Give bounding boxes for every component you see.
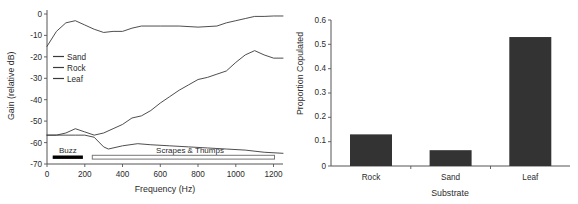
left-x-axis-ticks: 0 200 400 600 800 1000 1200 bbox=[45, 164, 283, 179]
ytick-label-0-3: 0.3 bbox=[315, 88, 327, 97]
legend-label-sand: Sand bbox=[67, 53, 87, 62]
ytick-label-0-1: 0.1 bbox=[315, 136, 327, 145]
left-x-axis-title: Frequency (Hz) bbox=[135, 184, 196, 194]
spectrum-line-chart-panel: Gain (relative dB) 0 -10 -20 -30 -40 -50… bbox=[0, 0, 290, 204]
scrapes-range-bar bbox=[92, 155, 274, 159]
xtick-label-600: 600 bbox=[153, 170, 167, 179]
ytick-label-0-2: 0.2 bbox=[315, 112, 327, 121]
xtick-label-800: 800 bbox=[191, 170, 205, 179]
ytick-label-0-5: 0.5 bbox=[315, 40, 327, 49]
proportion-bar-chart-panel: Proportion Copulated 0.6 0.5 0.4 0.3 0.2… bbox=[290, 0, 578, 204]
ytick-label-m40: -40 bbox=[30, 96, 42, 105]
xtick-label-rock: Rock bbox=[362, 173, 382, 182]
ytick-label-m60: -60 bbox=[30, 139, 42, 148]
xtick-label-1200: 1200 bbox=[264, 170, 283, 179]
legend-label-leaf: Leaf bbox=[67, 75, 84, 84]
bar-chart-svg: Proportion Copulated 0.6 0.5 0.4 0.3 0.2… bbox=[290, 0, 578, 204]
ytick-label-m70: -70 bbox=[30, 160, 42, 169]
ytick-label-m30: -30 bbox=[30, 74, 42, 83]
ytick-label-0-6: 0.6 bbox=[315, 16, 327, 25]
scrapes-label: Scrapes & Thumps bbox=[156, 146, 224, 155]
xtick-label-0: 0 bbox=[45, 170, 50, 179]
xtick-label-leaf: Leaf bbox=[522, 173, 539, 182]
xtick-label-200: 200 bbox=[78, 170, 92, 179]
legend-label-rock: Rock bbox=[67, 64, 87, 73]
xtick-label-sand: Sand bbox=[441, 173, 461, 182]
xtick-label-1000: 1000 bbox=[227, 170, 246, 179]
right-x-axis-ticks: Rock Sand Leaf bbox=[362, 166, 539, 182]
spectrum-legend: Sand Rock Leaf bbox=[53, 53, 87, 84]
ytick-label-0: 0 bbox=[321, 162, 326, 171]
bar-sand bbox=[430, 150, 472, 166]
two-panel-figure: Gain (relative dB) 0 -10 -20 -30 -40 -50… bbox=[0, 0, 578, 204]
ytick-label-m10: -10 bbox=[30, 31, 42, 40]
ytick-label-0: 0 bbox=[37, 10, 42, 19]
right-y-axis-ticks: 0.6 0.5 0.4 0.3 0.2 0.1 0 bbox=[315, 16, 331, 171]
ytick-label-0-4: 0.4 bbox=[315, 64, 327, 73]
buzz-label: Buzz bbox=[59, 146, 77, 155]
bar-rock bbox=[350, 134, 392, 166]
bar-group bbox=[350, 37, 551, 166]
buzz-range-bar bbox=[53, 156, 83, 159]
xtick-label-400: 400 bbox=[116, 170, 130, 179]
left-y-axis-title: Gain (relative dB) bbox=[6, 51, 16, 120]
ytick-label-m20: -20 bbox=[30, 53, 42, 62]
right-x-axis-title: Substrate bbox=[431, 188, 469, 198]
ytick-label-m50: -50 bbox=[30, 117, 42, 126]
curve-leaf bbox=[47, 16, 283, 46]
annotation-scrapes-thumps: Scrapes & Thumps bbox=[92, 146, 274, 159]
right-y-axis-title: Proportion Copulated bbox=[295, 32, 305, 115]
annotation-buzz: Buzz bbox=[53, 146, 83, 159]
bar-leaf bbox=[509, 37, 551, 166]
left-y-axis-ticks: 0 -10 -20 -30 -40 -50 -60 -70 bbox=[30, 10, 47, 169]
spectrum-chart-svg: Gain (relative dB) 0 -10 -20 -30 -40 -50… bbox=[0, 0, 290, 204]
